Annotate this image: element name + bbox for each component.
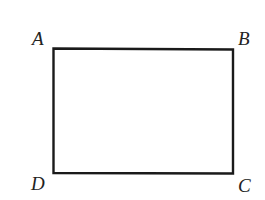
vertex-label-d: D bbox=[30, 173, 45, 194]
vertex-label-a: A bbox=[30, 28, 44, 49]
vertex-label-c: C bbox=[238, 175, 251, 196]
rectangle-abcd bbox=[54, 49, 234, 174]
rectangle-diagram: A B C D bbox=[0, 0, 265, 200]
vertex-label-b: B bbox=[238, 28, 250, 49]
